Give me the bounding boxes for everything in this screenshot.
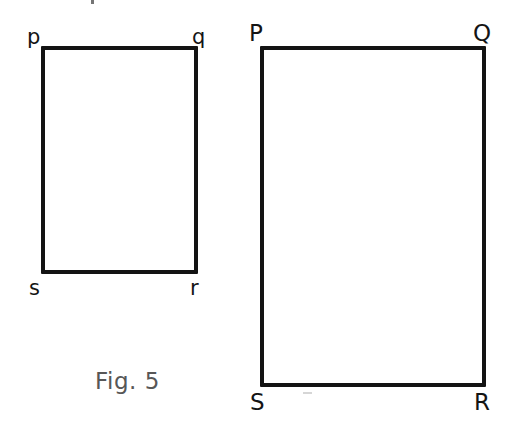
large-rectangle-PQRS xyxy=(260,46,486,387)
scan-smudge-artifact xyxy=(303,392,312,394)
vertex-label-P: P xyxy=(249,22,263,45)
vertex-label-r: r xyxy=(190,278,199,299)
vertex-label-R: R xyxy=(474,391,490,414)
vertex-label-p: p xyxy=(27,27,40,48)
small-rectangle-pqrs xyxy=(41,46,198,274)
figure-canvas: p q r s P Q R S Fig. 5 xyxy=(0,0,506,427)
vertex-label-Q: Q xyxy=(473,22,491,45)
scan-speck-artifact xyxy=(91,0,94,4)
figure-caption: Fig. 5 xyxy=(95,368,160,394)
vertex-label-q: q xyxy=(192,27,205,48)
vertex-label-S: S xyxy=(250,391,265,414)
vertex-label-s: s xyxy=(29,278,40,299)
